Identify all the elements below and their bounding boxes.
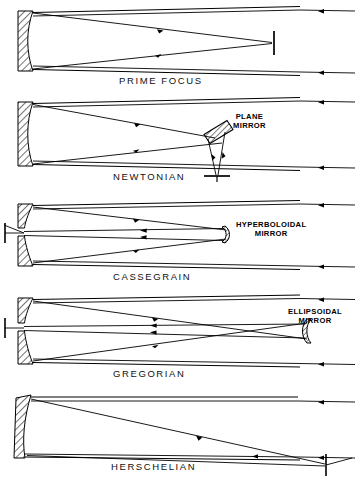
incoming-ray-top-ext [298, 401, 355, 402]
panel-gregorian: ELLIPSOIDAL MIRROR GREGORIAN [0, 292, 359, 386]
arrow-reflected-left [211, 154, 215, 161]
caption-herschelian: HERSCHELIAN [111, 461, 196, 472]
incoming-ray-bottom-ext [300, 364, 355, 365]
ellipsoidal-mirror-label-line1: ELLIPSOIDAL [288, 307, 342, 316]
reflected-ray-upper [24, 324, 305, 327]
arrow-incoming-bottom [318, 71, 324, 75]
hyperboloidal-mirror-label-line1: HYPERBOLOIDAL [236, 220, 306, 229]
converging-ray-lower [33, 44, 272, 70]
hyperboloidal-mirror-label-line2: MIRROR [255, 229, 288, 238]
panel-herschelian: HERSCHELIAN [0, 388, 359, 480]
arrow-incoming-top [318, 100, 324, 104]
arrow-incoming-bottom [318, 362, 324, 366]
converging-ray-upper [33, 105, 215, 139]
arrow-axial-ray [252, 454, 258, 458]
figure-sheet: PRIME FOCUS [0, 0, 359, 480]
incoming-ray-bottom-ext [300, 266, 355, 267]
arrow-converging-lower [155, 54, 161, 58]
reflected-ray-upper [24, 229, 224, 232]
primary-mirror [18, 102, 33, 166]
arrow-converging-lower [152, 345, 159, 349]
incoming-ray-top-ext [300, 299, 355, 300]
ellipsoidal-mirror-label-line2: MIRROR [299, 316, 332, 325]
arrow-incoming-bottom [318, 265, 324, 269]
incoming-ray-top-ext [300, 204, 355, 205]
converging-ray-upper [33, 207, 226, 230]
label-plane-mirror: PLANE MIRROR [233, 112, 266, 130]
plane-mirror-label-line2: MIRROR [233, 121, 266, 130]
caption-gregorian: GREGORIAN [113, 368, 185, 379]
converging-ray-upper [33, 301, 307, 339]
panel-prime-focus: PRIME FOCUS [0, 0, 359, 90]
caption-prime-focus: PRIME FOCUS [119, 75, 203, 86]
panel-newtonian: PLANE MIRROR NEWTONIAN [0, 92, 359, 189]
arrow-converging-upper [157, 29, 163, 33]
incoming-ray-top [33, 10, 300, 16]
primary-mirror-upper [18, 298, 33, 323]
caption-cassegrain: CASSEGRAIN [113, 271, 191, 282]
reflected-ray-lower [24, 331, 305, 339]
tube-wall-top [33, 98, 300, 104]
primary-mirror [18, 11, 33, 71]
tube-wall-bottom [25, 457, 300, 460]
arrow-reflected-right [222, 152, 226, 159]
primary-mirror-lower [18, 331, 33, 364]
incoming-ray-top-ext [300, 101, 355, 102]
arrow-reflected-upper [150, 324, 157, 328]
reflected-ray-lower [24, 236, 224, 241]
panel-cassegrain: HYPERBOLOIDAL MIRROR CASSEGRAIN [0, 197, 359, 289]
incoming-ray-bottom [33, 66, 300, 72]
primary-mirror-upper [18, 204, 33, 228]
label-ellipsoidal-mirror: ELLIPSOIDAL MIRROR [288, 307, 342, 325]
incoming-ray-bottom-ext [300, 167, 355, 168]
primary-mirror-lower [18, 236, 33, 266]
arrow-incoming-top [318, 400, 324, 404]
incoming-ray-bottom [33, 161, 300, 167]
plane-mirror-label-line1: PLANE [236, 112, 264, 121]
tilted-primary-mirror [14, 395, 31, 458]
arrow-incoming-bottom [318, 456, 324, 460]
tube-wall-bottom [33, 165, 300, 171]
arrow-incoming-top [318, 203, 324, 207]
converging-ray-lower [33, 239, 226, 263]
label-hyperboloidal-mirror: HYPERBOLOIDAL MIRROR [236, 220, 306, 238]
arrow-incoming-top [318, 9, 324, 13]
converging-ray-lower [33, 143, 222, 164]
incoming-ray-bottom-ext [300, 72, 355, 73]
incoming-ray-top [33, 101, 300, 107]
focus-stem [326, 458, 352, 465]
caption-newtonian: NEWTONIAN [113, 171, 185, 182]
arrow-incoming-bottom [318, 166, 324, 170]
converging-ray-lower [33, 323, 307, 361]
incoming-ray-bottom-ext [300, 457, 355, 458]
converging-ray-upper [33, 13, 272, 43]
incoming-ray-top-ext [300, 10, 355, 11]
arrow-incoming-top [318, 298, 324, 302]
arrow-reflected-upper [140, 229, 147, 233]
tube-wall-top [33, 7, 300, 13]
